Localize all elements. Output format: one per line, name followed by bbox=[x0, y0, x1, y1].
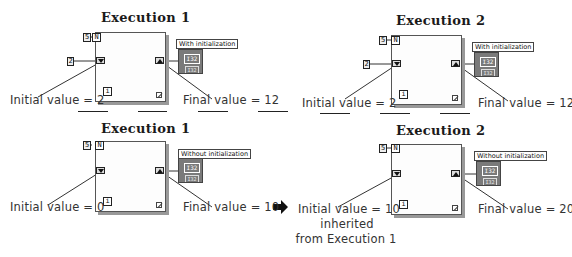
indicator-type: I32 bbox=[483, 178, 497, 185]
underline bbox=[440, 113, 470, 114]
shift-register-down-icon bbox=[96, 167, 105, 174]
resize-handle-icon bbox=[452, 205, 458, 211]
count-terminal: N bbox=[391, 144, 400, 153]
underline bbox=[380, 113, 410, 114]
underline bbox=[320, 113, 350, 114]
indicator-type: I32 bbox=[185, 175, 199, 182]
loop-count-constant: 5 bbox=[83, 33, 91, 42]
shift-register-down-icon bbox=[96, 57, 105, 64]
initial-value-note: Initial value = 10 bbox=[298, 202, 400, 216]
loop-count-constant: 5 bbox=[379, 36, 387, 45]
loop-count-constant: 5 bbox=[83, 141, 91, 150]
resize-handle-icon bbox=[156, 92, 162, 98]
shift-register-up-icon bbox=[451, 170, 460, 177]
inherited-note: inherited bbox=[298, 217, 396, 231]
resize-handle-icon bbox=[452, 95, 458, 101]
resize-handle-icon bbox=[156, 202, 162, 208]
count-terminal: N bbox=[95, 141, 104, 150]
shift-register-up-icon bbox=[155, 167, 164, 174]
initial-value-note: Initial value = 0 bbox=[10, 200, 105, 214]
numeric-indicator: I32 I32 bbox=[476, 161, 501, 186]
numeric-indicator: I32 I32 bbox=[178, 158, 203, 183]
initial-constant: 2 bbox=[363, 60, 370, 69]
shift-register-up-icon bbox=[155, 57, 164, 64]
loop-count-constant: 5 bbox=[379, 144, 387, 153]
numeric-indicator: I32 I32 bbox=[474, 52, 499, 77]
underline bbox=[258, 111, 288, 112]
final-value-note: Final value = 12 bbox=[183, 93, 279, 107]
shift-register-down-icon bbox=[392, 170, 401, 177]
execution-title: Execution 2 bbox=[396, 13, 485, 28]
from-execution-note: from Execution 1 bbox=[283, 232, 409, 246]
indicator-label: Without initialization bbox=[474, 151, 547, 161]
shift-register-up-icon bbox=[451, 60, 460, 67]
final-value-note: Final value = 20 bbox=[478, 202, 572, 216]
shift-register-down-icon bbox=[392, 60, 401, 67]
indicator-label: With initialization bbox=[176, 39, 238, 49]
indicator-type: I32 bbox=[481, 69, 495, 76]
initial-value-note: Initial value = 2 bbox=[302, 96, 397, 110]
underline bbox=[78, 111, 108, 112]
numeric-indicator: I32 I32 bbox=[178, 49, 203, 74]
count-terminal: N bbox=[391, 36, 400, 45]
initial-value-note: Initial value = 2 bbox=[10, 93, 105, 107]
initial-constant: 2 bbox=[67, 57, 74, 66]
indicator-value: I32 bbox=[482, 166, 498, 176]
final-value-note: Final value = 12 bbox=[478, 96, 572, 110]
underline bbox=[138, 111, 167, 112]
final-value-note: Final value = 10 bbox=[183, 200, 279, 214]
indicator-value: I32 bbox=[184, 163, 200, 173]
execution-title: Execution 1 bbox=[101, 10, 190, 25]
iteration-terminal: i bbox=[399, 90, 408, 99]
indicator-label: With initialization bbox=[472, 42, 534, 52]
indicator-value: I32 bbox=[184, 54, 200, 64]
indicator-type: I32 bbox=[185, 66, 199, 73]
add-node-icon bbox=[125, 54, 435, 182]
indicator-value: I32 bbox=[480, 57, 496, 67]
iteration-terminal: i bbox=[399, 200, 408, 209]
execution-title: Execution 1 bbox=[101, 121, 190, 136]
execution-title: Execution 2 bbox=[396, 123, 485, 138]
underline bbox=[198, 111, 228, 112]
count-terminal: N bbox=[92, 33, 101, 42]
